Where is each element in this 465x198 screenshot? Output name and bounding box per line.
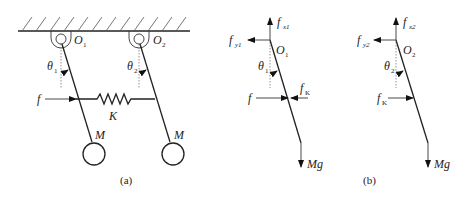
mass-1-label: M <box>94 128 106 142</box>
angle-2-sub: 2 <box>134 67 138 75</box>
ceiling <box>18 17 190 31</box>
angle-2-label-b: θ <box>384 59 390 73</box>
pivot-1-label-b: O <box>276 43 285 57</box>
angle-1-sub: 1 <box>54 67 58 75</box>
angle-arc-1 <box>61 70 68 71</box>
fx2-sub: x2 <box>408 23 416 31</box>
mass-2-label: M <box>173 128 185 142</box>
angle-2-sub-b: 2 <box>391 67 395 75</box>
spring-force-sub-b2: K <box>382 99 387 107</box>
panel-b-body-2: f x2 f y2 O 2 θ 2 f K Mg (b) <box>357 15 450 187</box>
fx1-sub: x1 <box>282 23 290 31</box>
pivot-1: O 1 <box>51 31 87 49</box>
pivot-1-sub: 1 <box>83 41 87 49</box>
pivot-2-label: O <box>153 33 162 47</box>
rod-1 <box>62 44 92 142</box>
pivot-2: O 2 <box>129 31 166 49</box>
mass-2 <box>162 143 184 165</box>
pivot-1-label: O <box>74 33 83 47</box>
coupled-pendulum-figure: O 1 O 2 θ 1 θ 2 f K M M <box>0 0 465 198</box>
force-f-label-b: f <box>248 91 253 105</box>
angle-2-label: θ <box>127 59 133 73</box>
fx2-label: f <box>403 15 408 29</box>
pivot-2-sub: 2 <box>162 41 166 49</box>
weight-label-b2: Mg <box>433 157 450 171</box>
angle-1-label-b: θ <box>258 59 264 73</box>
pivot-2-sub-b: 2 <box>412 51 416 59</box>
spring-force-sub-b1: K <box>305 89 310 97</box>
angle-1-label: θ <box>47 59 53 73</box>
fy1-label: f <box>229 33 234 47</box>
pivot-2-label-b: O <box>403 43 412 57</box>
angle-arc-b1 <box>270 71 277 72</box>
panel-a: O 1 O 2 θ 1 θ 2 f K M M <box>18 17 190 187</box>
rod-2 <box>140 44 170 142</box>
caption-b: (b) <box>363 174 376 187</box>
weight-label-b1: Mg <box>306 157 323 171</box>
fy2-label: f <box>357 33 362 47</box>
fx1-label: f <box>277 15 282 29</box>
angle-arc-b2 <box>396 71 403 72</box>
caption-a: (a) <box>120 174 133 187</box>
angle-1-sub-b: 1 <box>265 67 269 75</box>
mass-1 <box>83 143 105 165</box>
fy1-sub: y1 <box>234 41 242 49</box>
force-f-label: f <box>37 92 42 106</box>
spring-label: K <box>108 109 118 123</box>
pivot-1-sub-b: 1 <box>285 51 289 59</box>
fy2-sub: y2 <box>362 41 370 49</box>
angle-arc-2 <box>139 70 146 71</box>
panel-b-body-1: f x1 f y1 O 1 θ 1 f f K Mg <box>229 15 323 171</box>
spring <box>76 94 155 104</box>
